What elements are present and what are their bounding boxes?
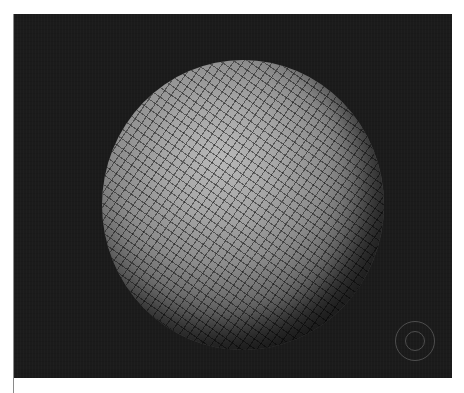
panel-divider <box>13 378 14 393</box>
orbit-gizmo-inner-ring <box>405 331 425 351</box>
sphere-mesh[interactable] <box>102 60 384 350</box>
3d-viewport[interactable] <box>13 14 452 378</box>
sphere-shading <box>102 60 384 350</box>
orbit-gizmo-icon[interactable] <box>395 321 435 361</box>
